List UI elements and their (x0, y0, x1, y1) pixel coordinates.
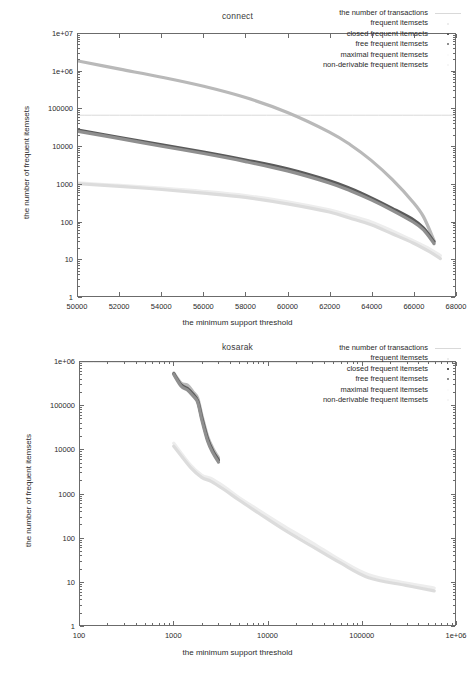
y-tick-mark-minor (78, 82, 80, 83)
legend-item: non-derivable frequent itemsets (323, 60, 463, 70)
x-tick-label: 1000 (165, 631, 182, 640)
x-tick-mark-minor (152, 362, 153, 364)
y-tick-mark-minor (80, 500, 82, 501)
y-tick-mark-minor (453, 227, 455, 228)
x-tick-mark (268, 621, 269, 625)
x-tick-mark (330, 292, 331, 296)
x-tick-mark-minor (202, 362, 203, 364)
legend-item: free frequent itemsets (323, 39, 463, 49)
x-tick-mark-minor (428, 623, 429, 625)
y-tick-mark-minor (80, 454, 82, 455)
y-tick-mark-minor (80, 595, 82, 596)
y-tick-mark-minor (453, 500, 455, 501)
x-tick-mark-minor (447, 623, 448, 625)
y-tick-mark-minor (453, 268, 455, 269)
y-tick-mark-minor (78, 233, 80, 234)
y-tick-mark-minor (453, 192, 455, 193)
y-tick-label: 100000 (37, 401, 75, 410)
y-tick-mark (80, 626, 84, 627)
y-tick-mark-minor (78, 59, 80, 60)
y-tick-mark-minor (78, 268, 80, 269)
y-tick-mark (451, 538, 455, 539)
y-tick-mark-minor (78, 48, 80, 49)
x-tick-mark-minor (357, 623, 358, 625)
y-tick-label: 1 (37, 622, 75, 631)
y-tick-mark-minor (78, 261, 80, 262)
y-tick-mark-minor (453, 586, 455, 587)
y-tick-mark-minor (78, 173, 80, 174)
legend-key (433, 50, 463, 60)
y-tick-mark-minor (78, 279, 80, 280)
x-tick-mark-minor (312, 623, 313, 625)
y-tick-mark-minor (453, 418, 455, 419)
y-tick-mark-minor (80, 368, 82, 369)
x-tick-mark-minor (107, 623, 108, 625)
y-tick-mark-minor (453, 472, 455, 473)
x-tick-label: 58000 (235, 302, 256, 311)
y-tick-mark-minor (80, 456, 82, 457)
y-tick-mark-minor (78, 230, 80, 231)
y-tick-mark-minor (453, 110, 455, 111)
x-tick-mark-minor (247, 623, 248, 625)
y-tick-mark-minor (78, 237, 80, 238)
x-tick-label: 64000 (361, 302, 382, 311)
y-tick-mark-minor (453, 480, 455, 481)
y-tick-mark-minor (78, 204, 80, 205)
series-path (174, 446, 434, 591)
y-tick-mark-minor (453, 166, 455, 167)
chart-connect: connect 1101001000100001000001e+061e+07 … (0, 0, 475, 334)
y-tick-mark-minor (78, 157, 80, 158)
x-tick-mark-minor (202, 623, 203, 625)
y-axis-label-connect: the number of frequent itemsets (22, 83, 31, 243)
y-tick-mark-minor (80, 542, 82, 543)
x-tick-mark (119, 34, 120, 38)
legend-item: closed frequent itemsets (323, 364, 463, 374)
y-tick-mark-minor (78, 195, 80, 196)
x-tick-mark (456, 292, 457, 296)
x-tick-label: 68000 (446, 302, 467, 311)
y-tick-mark-minor (453, 599, 455, 600)
y-tick-mark (80, 494, 84, 495)
y-tick-mark-minor (80, 392, 82, 393)
y-tick-mark-minor (453, 77, 455, 78)
x-tick-mark (173, 621, 174, 625)
y-tick-mark-minor (78, 35, 80, 36)
y-tick-mark-minor (78, 110, 80, 111)
y-tick-mark-minor (453, 225, 455, 226)
y-tick-mark-minor (453, 128, 455, 129)
y-tick-mark-minor (453, 589, 455, 590)
x-tick-mark-minor (441, 623, 442, 625)
legend-label: maximal frequent itemsets (340, 50, 433, 60)
legend-key (433, 385, 463, 395)
y-tick-mark-minor (453, 188, 455, 189)
y-tick-label: 1e+07 (35, 29, 73, 38)
x-tick-mark-minor (333, 623, 334, 625)
y-tick-mark-minor (78, 79, 80, 80)
y-tick-mark-minor (453, 82, 455, 83)
y-tick-mark-minor (453, 456, 455, 457)
y-tick-mark-minor (78, 44, 80, 45)
series-path (78, 183, 440, 256)
x-tick-mark-minor (253, 362, 254, 364)
chart-kosarak: kosarak 1101001000100001000001e+06 10010… (0, 334, 475, 673)
x-tick-mark-minor (312, 362, 313, 364)
legend-kosarak: the number of transactionsfrequent items… (323, 343, 463, 405)
x-tick-mark-minor (124, 623, 125, 625)
y-tick-mark-minor (78, 223, 80, 224)
x-tick-mark-minor (218, 623, 219, 625)
y-tick-mark-minor (453, 555, 455, 556)
x-tick-mark-minor (407, 623, 408, 625)
y-tick-mark (80, 449, 84, 450)
legend-point-swatch (448, 389, 449, 390)
y-tick-mark-minor (453, 74, 455, 75)
y-tick-mark-minor (453, 542, 455, 543)
x-tick-mark-minor (124, 362, 125, 364)
y-tick-mark-minor (453, 148, 455, 149)
y-tick-mark-minor (80, 451, 82, 452)
x-tick-mark (173, 362, 174, 366)
legend-connect: the number of transactionsfrequent items… (323, 8, 463, 70)
y-tick-mark-minor (78, 241, 80, 242)
y-tick-mark-minor (80, 503, 82, 504)
y-tick-mark-minor (78, 248, 80, 249)
y-tick-mark (80, 361, 84, 362)
